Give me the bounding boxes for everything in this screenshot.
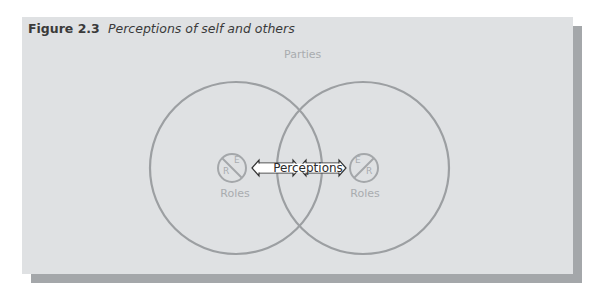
left-e-letter: E xyxy=(234,155,240,165)
right-r-letter: R xyxy=(366,166,372,176)
right-roles-label: Roles xyxy=(345,187,385,200)
figure-panel: Figure 2.3Perceptions of self and others… xyxy=(22,17,573,274)
venn-diagram xyxy=(22,17,573,274)
left-r-letter: R xyxy=(223,166,229,176)
perceptions-label: Perceptions xyxy=(268,161,348,175)
right-e-letter: E xyxy=(355,155,361,165)
left-roles-label: Roles xyxy=(215,187,255,200)
